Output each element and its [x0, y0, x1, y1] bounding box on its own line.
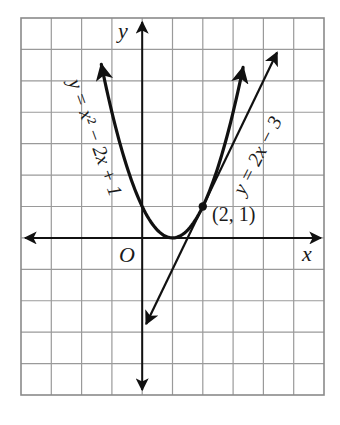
tangent-point-dot [199, 202, 207, 210]
grid-lines [21, 18, 324, 395]
tangent-line [146, 53, 277, 324]
origin-label: O [119, 242, 135, 267]
coordinate-graph: y x O (2, 1) y = x² − 2x + 1 y = 2x − 3 [0, 0, 340, 425]
x-axis-label: x [301, 241, 312, 266]
line-equation-label: y = 2x − 3 [227, 112, 287, 200]
y-axis-label: y [116, 18, 128, 43]
point-label: (2, 1) [212, 203, 255, 226]
